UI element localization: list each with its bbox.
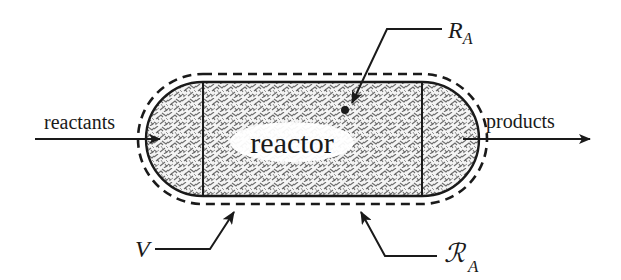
volume-leader — [155, 212, 234, 249]
surface-rate-label: ℛA — [444, 239, 479, 276]
reactor-label: reactor — [250, 126, 333, 159]
reactants-label: reactants — [44, 111, 115, 133]
products-label: products — [486, 110, 555, 133]
reaction-rate-point — [341, 106, 349, 114]
reaction-rate-label: RA — [447, 17, 473, 47]
reactor-diagram: reactor reactants products RA V ℛA — [0, 0, 621, 280]
surface-rate-leader — [361, 212, 437, 256]
volume-label: V — [135, 236, 152, 262]
